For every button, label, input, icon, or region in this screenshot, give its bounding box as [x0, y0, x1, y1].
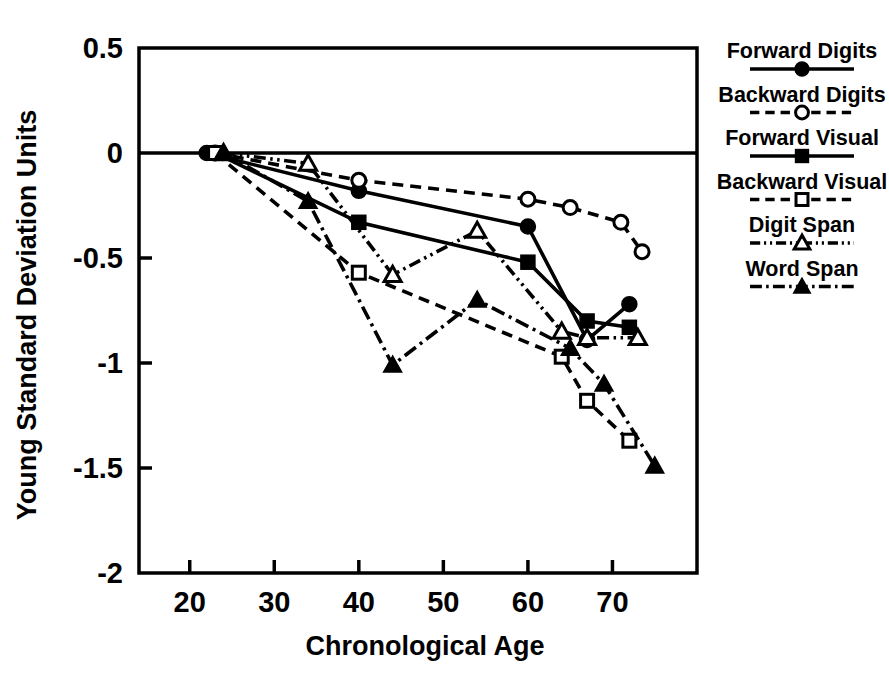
y-axis-title: Young Standard Deviation Units: [12, 110, 42, 521]
x-tick-label: 50: [427, 586, 459, 618]
data-point-marker: [521, 255, 535, 269]
data-point-marker: [563, 201, 577, 215]
data-point-marker: [623, 434, 636, 447]
legend-label: Forward Digits: [727, 39, 878, 63]
y-tick-label: 0: [107, 137, 123, 169]
data-point-marker: [580, 314, 594, 328]
x-tick-label: 40: [343, 586, 375, 618]
y-tick-label: -1: [97, 347, 123, 379]
data-point-marker: [796, 150, 809, 163]
y-tick-label: -2: [97, 557, 123, 589]
data-point-marker: [352, 173, 366, 187]
data-point-marker: [622, 297, 637, 312]
data-point-marker: [622, 320, 636, 334]
x-tick-label: 60: [512, 586, 544, 618]
line-chart-canvas: 0.50-0.5-1-1.5-2 203040506070 Forward Di…: [0, 0, 889, 681]
chart-figure: 0.50-0.5-1-1.5-2 203040506070 Forward Di…: [0, 0, 889, 681]
x-axis-title: Chronological Age: [305, 631, 544, 661]
y-tick-label: -0.5: [73, 242, 123, 274]
data-point-marker: [614, 215, 628, 229]
legend-label: Backward Digits: [718, 83, 885, 107]
x-tick-label: 20: [174, 586, 206, 618]
data-point-marker: [795, 62, 809, 76]
data-point-marker: [796, 106, 809, 119]
legend-label: Forward Visual: [725, 126, 879, 150]
y-tick-label: -1.5: [73, 452, 123, 484]
x-tick-label: 30: [258, 586, 290, 618]
x-tick-label: 70: [596, 586, 628, 618]
data-point-marker: [796, 194, 808, 206]
y-tick-label: 0.5: [83, 32, 123, 64]
data-point-marker: [521, 192, 535, 206]
data-point-marker: [581, 394, 594, 407]
legend-label: Backward Visual: [717, 170, 888, 194]
data-point-marker: [352, 266, 365, 279]
data-point-marker: [520, 219, 535, 234]
data-point-marker: [635, 245, 649, 259]
